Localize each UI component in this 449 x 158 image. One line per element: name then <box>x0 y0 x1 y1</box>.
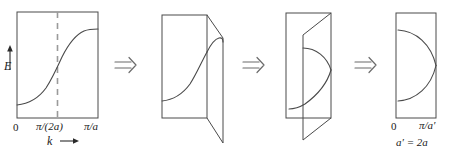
panel1-tick-mid: π/(2a) <box>36 121 63 132</box>
panel2-curve-folded <box>207 38 223 52</box>
implies-arrow-icon-3 <box>355 58 376 73</box>
implies-arrow-icon-2 <box>243 58 264 73</box>
panel4-tick-end: π/a′ <box>419 120 435 131</box>
panel4-upper-band <box>398 30 436 66</box>
panel3-outer-face <box>286 13 331 118</box>
panel-3-fold-step-2 <box>286 13 331 140</box>
implies-arrow-icon-1 <box>115 58 136 73</box>
implies-arrow-1-group <box>115 58 136 73</box>
implies-arrow-2-group <box>243 58 264 73</box>
panel4-lower-band <box>398 66 436 102</box>
panel4-frame <box>396 13 436 118</box>
panel4-lattice-note: a′ = 2a <box>396 137 428 148</box>
figure-canvas <box>0 0 449 158</box>
implies-arrow-3-group <box>355 58 376 73</box>
panel1-tick-zero: 0 <box>13 122 19 133</box>
panel-4-reduced-zone <box>396 13 436 118</box>
energy-axis-label: E <box>4 60 11 72</box>
panel3-curve-lower <box>289 70 331 109</box>
panel2-folded-face <box>207 15 223 143</box>
panel3-curve-upper <box>303 48 331 70</box>
band-folding-figure: E 0 π/(2a) π/a k 0 π/a′ a′ = 2a <box>0 0 449 158</box>
panel2-front-face <box>162 15 207 118</box>
up-arrow-icon <box>7 45 13 52</box>
panel2-curve-front <box>162 52 207 101</box>
panel-2-fold-step-1 <box>162 15 223 143</box>
right-arrow-icon <box>73 138 79 143</box>
panel4-tick-zero: 0 <box>391 121 397 132</box>
panel3-folded-sheet <box>303 13 331 140</box>
k-axis-label: k <box>47 135 52 147</box>
panel1-tick-end: π/a <box>84 121 98 132</box>
